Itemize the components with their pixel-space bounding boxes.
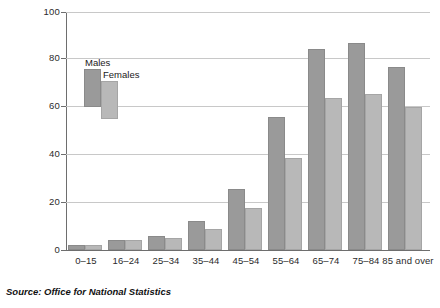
x-tick-label-65-74: 65–74 (306, 255, 346, 266)
bar-male-25-34[interactable] (148, 236, 165, 250)
x-tick-label-85-and-over: 85 and over (382, 255, 434, 266)
bar-female-25-34[interactable] (165, 238, 182, 250)
y-tick-label-80: 80 (20, 52, 60, 63)
y-tick-label-0: 0 (20, 244, 60, 255)
x-tick-label-16-24: 16–24 (106, 255, 146, 266)
bar-female-55-64[interactable] (285, 158, 302, 250)
bar-female-85-and-over[interactable] (405, 107, 422, 250)
legend-swatch-females (101, 81, 118, 119)
bar-group-25-34 (146, 12, 186, 250)
bar-female-35-44[interactable] (205, 229, 222, 250)
bar-group-85-and-over (386, 12, 426, 250)
y-tick-label-40: 40 (20, 148, 60, 159)
bar-male-85-and-over[interactable] (388, 67, 405, 250)
bar-chart-figure: 100 80 60 40 20 0 (0, 0, 440, 308)
x-tick-label-55-64: 55–64 (266, 255, 306, 266)
bar-male-75-84[interactable] (348, 43, 365, 250)
legend-label-males: Males (85, 57, 110, 68)
legend-label-females: Females (103, 69, 139, 80)
legend-swatch-males (84, 69, 101, 107)
bar-group-0-15 (66, 12, 106, 250)
bar-male-55-64[interactable] (268, 117, 285, 250)
bar-male-45-54[interactable] (228, 189, 245, 250)
y-tick-label-60: 60 (20, 100, 60, 111)
bar-female-75-84[interactable] (365, 94, 382, 250)
bars-layer (66, 12, 430, 250)
bar-female-16-24[interactable] (125, 240, 142, 250)
x-tick-label-35-44: 35–44 (186, 255, 226, 266)
bar-male-0-15[interactable] (68, 245, 85, 250)
bar-male-16-24[interactable] (108, 240, 125, 250)
source-note: Source: Office for National Statistics (6, 286, 171, 297)
bar-group-16-24 (106, 12, 146, 250)
y-tick-label-100: 100 (20, 6, 60, 17)
bar-group-75-84 (346, 12, 386, 250)
bar-female-65-74[interactable] (325, 98, 342, 250)
x-tick-label-25-34: 25–34 (146, 255, 186, 266)
bar-male-65-74[interactable] (308, 49, 325, 250)
bar-group-55-64 (266, 12, 306, 250)
legend: Males Females (84, 56, 214, 111)
gridline-baseline-0 (66, 250, 430, 251)
x-axis-tick-labels: 0–15 16–24 25–34 35–44 45–54 55–64 65–74… (66, 255, 430, 271)
bar-male-35-44[interactable] (188, 221, 205, 250)
bar-group-65-74 (306, 12, 346, 250)
y-axis-tick-labels: 100 80 60 40 20 0 (12, 0, 60, 308)
bar-female-0-15[interactable] (85, 245, 102, 250)
bar-group-35-44 (186, 12, 226, 250)
bar-group-45-54 (226, 12, 266, 250)
x-tick-label-75-84: 75–84 (346, 255, 386, 266)
bar-female-45-54[interactable] (245, 208, 262, 250)
x-tick-label-0-15: 0–15 (66, 255, 106, 266)
x-tick-label-45-54: 45–54 (226, 255, 266, 266)
y-tick-label-20: 20 (20, 196, 60, 207)
